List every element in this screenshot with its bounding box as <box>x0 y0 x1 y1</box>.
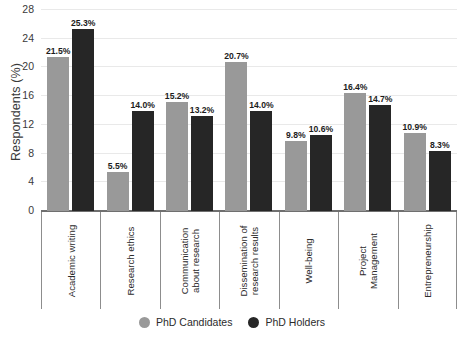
category-cell: Research ethics <box>100 212 159 309</box>
category-label: Research ethics <box>125 226 136 295</box>
y-axis-tick: 8 <box>28 147 34 159</box>
bar: 10.9% <box>404 133 426 211</box>
category-cell: Academic writing <box>41 212 100 309</box>
bar-group: 5.5%14.0% <box>100 10 159 211</box>
y-axis-tick: 12 <box>22 118 34 130</box>
category-label: Dissemination of research results <box>238 225 260 296</box>
y-axis-tick: 28 <box>22 3 34 15</box>
legend-label: PhD Candidates <box>156 316 232 328</box>
bar-group: 9.8%10.6% <box>279 10 338 211</box>
bar-value-label: 10.6% <box>309 124 333 134</box>
category-axis: Academic writingResearch ethicsCommunica… <box>41 211 457 309</box>
category-label: Project Management <box>357 233 379 289</box>
category-label: Academic writing <box>65 224 76 297</box>
bar-group: 15.2%13.2% <box>160 10 219 211</box>
bar: 13.2% <box>191 116 213 211</box>
legend-item[interactable]: PhD Holders <box>248 316 325 328</box>
bar-value-label: 20.7% <box>224 51 248 61</box>
bar: 14.7% <box>369 105 391 211</box>
bar-value-label: 14.0% <box>130 100 154 110</box>
legend-swatch-icon <box>248 317 259 328</box>
bar-value-label: 25.3% <box>71 18 95 28</box>
bar-value-label: 13.2% <box>190 105 214 115</box>
bar-group: 21.5%25.3% <box>41 10 100 211</box>
y-axis-tick: 20 <box>22 60 34 72</box>
category-cell: Dissemination of research results <box>219 212 278 309</box>
bar: 15.2% <box>166 102 188 211</box>
bar-value-label: 10.9% <box>403 122 427 132</box>
y-axis-tick: 0 <box>28 204 34 216</box>
legend-swatch-icon <box>139 317 150 328</box>
bar-value-label: 5.5% <box>108 161 128 171</box>
bar-chart: Respondents (%) 0481216202428 21.5%25.3%… <box>0 0 464 348</box>
legend-label: PhD Holders <box>265 316 325 328</box>
bar-value-label: 8.3% <box>430 140 450 150</box>
bar-value-label: 15.2% <box>165 91 189 101</box>
bar: 14.0% <box>250 111 272 212</box>
plot-area: 0481216202428 21.5%25.3%5.5%14.0%15.2%13… <box>41 10 457 211</box>
y-axis-title: Respondents (%) <box>9 52 23 172</box>
category-cell: Well-being <box>279 212 338 309</box>
bar-value-label: 14.0% <box>249 100 273 110</box>
bar-value-label: 21.5% <box>46 46 70 56</box>
bar: 8.3% <box>429 151 451 211</box>
bar: 9.8% <box>285 141 307 211</box>
category-label: Well-being <box>303 238 314 283</box>
category-cell: Entrepreneurship <box>398 212 457 309</box>
bar: 10.6% <box>310 135 332 211</box>
bar-group: 16.4%14.7% <box>338 10 397 211</box>
category-label: Communication about research <box>179 227 201 294</box>
bar-group: 20.7%14.0% <box>219 10 278 211</box>
bar: 5.5% <box>107 172 129 211</box>
y-axis-tick: 24 <box>22 32 34 44</box>
chart-legend: PhD CandidatesPhD Holders <box>0 316 464 328</box>
bar-group: 10.9%8.3% <box>398 10 457 211</box>
bar: 21.5% <box>47 57 69 211</box>
y-axis-tick: 4 <box>28 175 34 187</box>
bar: 25.3% <box>72 29 94 211</box>
bar-groups: 21.5%25.3%5.5%14.0%15.2%13.2%20.7%14.0%9… <box>41 10 457 211</box>
legend-item[interactable]: PhD Candidates <box>139 316 232 328</box>
bar: 20.7% <box>225 62 247 211</box>
bar-value-label: 16.4% <box>343 82 367 92</box>
bar-value-label: 9.8% <box>286 130 306 140</box>
y-axis-tick: 16 <box>22 89 34 101</box>
bar-value-label: 14.7% <box>368 94 392 104</box>
bar: 14.0% <box>132 111 154 212</box>
bar: 16.4% <box>344 93 366 211</box>
category-cell: Project Management <box>338 212 397 309</box>
category-label: Entrepreneurship <box>422 224 433 298</box>
category-cell: Communication about research <box>160 212 219 309</box>
